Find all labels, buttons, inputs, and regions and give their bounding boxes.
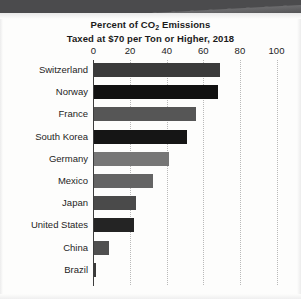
- x-tick-label-100: 100: [269, 45, 285, 56]
- bar-switzerland: [94, 63, 220, 77]
- category-label-south-korea: South Korea: [35, 132, 88, 142]
- bar-norway: [94, 85, 218, 99]
- gridline-100: [277, 60, 278, 285]
- x-tick-label-60: 60: [198, 45, 209, 56]
- category-label-switzerland: Switzerland: [39, 65, 88, 75]
- bar-brazil: [94, 263, 96, 277]
- category-label-france: France: [58, 109, 88, 119]
- category-label-china: China: [63, 243, 88, 253]
- x-tick-label-80: 80: [235, 45, 246, 56]
- bar-france: [94, 107, 196, 121]
- x-tick-label-20: 20: [125, 45, 136, 56]
- chart-page: Percent of CO2 Emissions Taxed at $70 pe…: [0, 0, 301, 299]
- category-label-brazil: Brazil: [64, 265, 88, 275]
- category-label-mexico: Mexico: [58, 176, 88, 186]
- x-axis-tick-labels: 020406080100: [0, 45, 301, 58]
- bar-united-states: [94, 218, 134, 232]
- category-label-united-states: United States: [31, 220, 88, 230]
- bar-south-korea: [94, 130, 187, 144]
- category-label-japan: Japan: [62, 198, 88, 208]
- bar-japan: [94, 196, 136, 210]
- category-label-norway: Norway: [56, 87, 88, 97]
- bar-china: [94, 241, 109, 255]
- chart-plot-area: 020406080100 SwitzerlandNorwayFranceSout…: [0, 0, 301, 299]
- bar-germany: [94, 152, 169, 166]
- category-label-germany: Germany: [49, 154, 88, 164]
- gridline-80: [240, 60, 241, 285]
- x-tick-label-0: 0: [91, 45, 96, 56]
- x-tick-label-40: 40: [161, 45, 172, 56]
- bar-mexico: [94, 174, 153, 188]
